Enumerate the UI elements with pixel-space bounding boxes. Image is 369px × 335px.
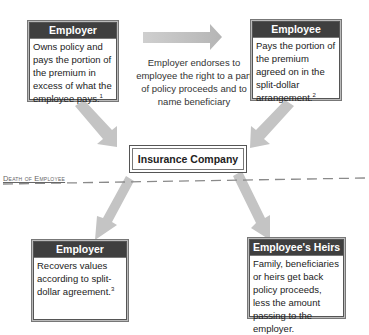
- employee-top-box: Employee Pays the portion of the premium…: [252, 21, 340, 99]
- employer-bottom-box: Employer Recovers values according to sp…: [33, 241, 127, 320]
- employer-top-box: Employer Owns policy and pays the portio…: [29, 22, 117, 100]
- employer-top-title: Employer: [30, 23, 116, 39]
- employer-bottom-text: Recovers values according to split-dolla…: [34, 258, 126, 300]
- employee-top-title: Employee: [253, 22, 339, 38]
- endorsement-caption: Employer endorses to employee the right …: [131, 56, 257, 108]
- employee-heirs-title: Employee's Heirs: [250, 240, 343, 256]
- arrow-employer-to-employee: [143, 24, 222, 50]
- employee-heirs-text: Family, beneficiaries or heirs get back …: [250, 256, 343, 335]
- insurance-company-box: Insurance Company: [129, 145, 247, 173]
- arrow-employer-to-insurance: [75, 100, 117, 147]
- arrow-insurance-to-employer: [95, 176, 134, 240]
- footnote-3: 3: [111, 286, 114, 292]
- employer-top-text: Owns policy and pays the portion of the …: [30, 39, 116, 107]
- arrow-insurance-to-heirs: [233, 171, 270, 240]
- footnote-1: 1: [100, 93, 103, 99]
- employer-bottom-title: Employer: [34, 242, 126, 258]
- employee-top-text: Pays the portion of the premium agreed o…: [253, 38, 339, 106]
- footnote-2: 2: [313, 92, 316, 98]
- employee-heirs-box: Employee's Heirs Family, beneficiaries o…: [249, 239, 344, 317]
- death-of-employee-label: Death of Employee: [3, 174, 65, 183]
